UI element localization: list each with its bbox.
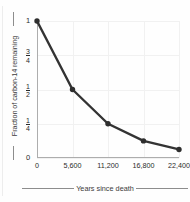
plot-area — [37, 21, 179, 158]
x-axis-tick-label: 11,200 — [97, 161, 118, 170]
data-point-marker — [34, 18, 39, 23]
data-point-marker — [70, 87, 75, 92]
x-axis-title: Years since death — [22, 182, 188, 194]
y-axis-tick-label: 0 — [21, 154, 35, 162]
gridline-horizontal — [37, 158, 179, 159]
x-axis-tick-label: 0 — [35, 161, 39, 170]
y-axis-tick-label: 12 — [21, 83, 35, 99]
x-axis-tick-label: 16,800 — [133, 161, 155, 170]
gridline-vertical — [179, 21, 180, 158]
data-point-marker — [176, 147, 181, 152]
x-axis-title-rule-right — [136, 188, 188, 189]
x-axis-title-rule-left — [22, 188, 74, 189]
figure-left-rule — [2, 6, 3, 196]
x-axis-tick-label: 5,600 — [64, 161, 82, 170]
y-axis-tick-labels: 01412341 — [18, 21, 35, 158]
decay-curve-series — [37, 21, 179, 158]
x-axis-title-label: Years since death — [74, 184, 137, 193]
y-axis-title-rule-bottom — [13, 146, 14, 160]
y-axis-title-rule-top — [13, 12, 14, 26]
carbon-14-decay-chart: Fraction of carbon-14 remaining 01412341… — [0, 0, 190, 202]
decay-curve-line — [37, 21, 179, 149]
y-axis-tick-label: 34 — [21, 48, 35, 64]
x-axis-tick-label: 22,400 — [168, 161, 190, 170]
data-point-marker — [141, 138, 146, 143]
data-point-marker — [105, 121, 110, 126]
y-axis-tick-label: 1 — [21, 17, 35, 25]
y-axis-tick-label: 14 — [21, 117, 35, 133]
x-axis-tick-labels: 05,60011,20016,80022,400 — [37, 161, 179, 173]
